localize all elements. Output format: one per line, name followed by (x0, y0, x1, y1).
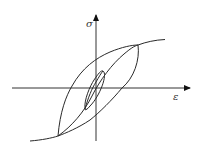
x-axis-label: ε (173, 92, 178, 102)
large-loop-upper-branch (58, 45, 138, 136)
y-axis-label: σ (86, 19, 93, 29)
hysteresis-diagram (0, 0, 198, 155)
backbone-curve (30, 40, 165, 142)
